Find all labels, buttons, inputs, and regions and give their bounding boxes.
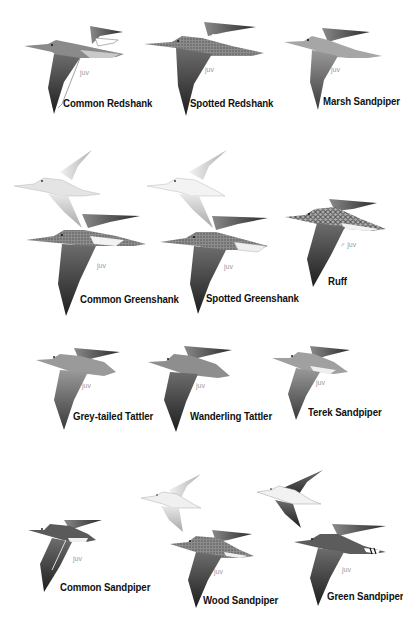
age-label: juv bbox=[97, 262, 106, 269]
age-label: juv bbox=[73, 555, 82, 562]
species-name: Common Redshank bbox=[63, 97, 152, 109]
age-label: juv bbox=[224, 263, 233, 270]
species-name: Marsh Sandpiper bbox=[323, 95, 400, 107]
species-name: Terek Sandpiper bbox=[308, 406, 382, 418]
age-label: ♂ juv bbox=[340, 241, 356, 248]
age-label: juv bbox=[196, 382, 205, 389]
species-name: Green Sandpiper bbox=[327, 590, 403, 602]
age-label: juv bbox=[80, 69, 89, 76]
species-name: Wanderling Tattler bbox=[190, 410, 272, 422]
age-label: juv bbox=[342, 566, 351, 573]
species-name: Spotted Greenshank bbox=[206, 292, 299, 304]
age-label: juv bbox=[316, 379, 325, 386]
age-label: juv bbox=[331, 66, 340, 73]
species-name: Common Sandpiper bbox=[60, 581, 150, 593]
age-label: juv bbox=[205, 66, 214, 73]
species-name: Wood Sandpiper bbox=[203, 594, 278, 606]
species-name: Ruff bbox=[328, 275, 347, 287]
age-label: juv bbox=[82, 382, 91, 389]
age-label: juv bbox=[214, 568, 223, 575]
bird-illustration-wood-sandpiper-adult bbox=[139, 474, 205, 536]
species-name: Spotted Redshank bbox=[190, 97, 273, 109]
species-name: Grey-tailed Tattler bbox=[73, 410, 153, 422]
